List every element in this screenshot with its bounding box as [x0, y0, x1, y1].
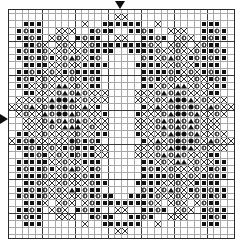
- pattern-cell-filled-square[interactable]: [135, 27, 142, 34]
- pattern-cell-empty[interactable]: [121, 172, 128, 179]
- pattern-cell-empty[interactable]: [128, 62, 135, 69]
- pattern-cell-cross-mark[interactable]: [49, 207, 56, 214]
- pattern-cell-filled-square[interactable]: [148, 186, 155, 193]
- pattern-cell-filled-square[interactable]: [207, 20, 214, 27]
- pattern-cell-half-moon[interactable]: [29, 34, 36, 41]
- pattern-cell-cross-mark[interactable]: [35, 103, 42, 110]
- pattern-cell-cross-mark[interactable]: [201, 110, 208, 117]
- pattern-cell-filled-triangle[interactable]: [68, 165, 75, 172]
- pattern-cell-filled-triangle[interactable]: [62, 83, 69, 90]
- pattern-cell-filled-square[interactable]: [35, 186, 42, 193]
- pattern-cell-empty[interactable]: [181, 234, 188, 238]
- pattern-cell-filled-square[interactable]: [148, 158, 155, 165]
- pattern-cell-filled-triangle[interactable]: [154, 103, 161, 110]
- pattern-cell-filled-circle[interactable]: [55, 96, 62, 103]
- pattern-cell-empty[interactable]: [168, 20, 175, 27]
- pattern-cell-empty[interactable]: [174, 228, 181, 235]
- pattern-cell-half-moon[interactable]: [181, 117, 188, 124]
- pattern-cell-cross-mark[interactable]: [154, 200, 161, 207]
- pattern-cell-cross-mark[interactable]: [55, 124, 62, 131]
- pattern-cell-filled-circle[interactable]: [62, 110, 69, 117]
- pattern-cell-filled-square[interactable]: [148, 179, 155, 186]
- pattern-cell-filled-square[interactable]: [88, 55, 95, 62]
- pattern-cell-empty[interactable]: [227, 34, 234, 41]
- pattern-cell-filled-square[interactable]: [141, 69, 148, 76]
- pattern-cell-empty[interactable]: [227, 179, 234, 186]
- pattern-cell-empty[interactable]: [115, 145, 122, 152]
- pattern-cell-empty[interactable]: [49, 214, 56, 221]
- pattern-cell-half-moon[interactable]: [194, 103, 201, 110]
- pattern-cell-empty[interactable]: [227, 41, 234, 48]
- pattern-cell-cross-mark[interactable]: [194, 200, 201, 207]
- pattern-cell-cross-mark[interactable]: [55, 55, 62, 62]
- pattern-cell-filled-square[interactable]: [88, 165, 95, 172]
- pattern-cell-cross-mark[interactable]: [62, 193, 69, 200]
- pattern-cell-empty[interactable]: [29, 234, 36, 238]
- pattern-cell-filled-square[interactable]: [221, 83, 228, 90]
- pattern-cell-filled-triangle[interactable]: [174, 83, 181, 90]
- pattern-cell-empty[interactable]: [9, 62, 16, 69]
- pattern-cell-empty[interactable]: [115, 124, 122, 131]
- pattern-cell-empty[interactable]: [108, 96, 115, 103]
- pattern-cell-empty[interactable]: [128, 117, 135, 124]
- pattern-cell-filled-square[interactable]: [62, 69, 69, 76]
- pattern-cell-empty[interactable]: [154, 234, 161, 238]
- pattern-cell-cross-mark[interactable]: [148, 89, 155, 96]
- pattern-cell-cross-mark[interactable]: [154, 41, 161, 48]
- pattern-cell-empty[interactable]: [201, 234, 208, 238]
- pattern-cell-cross-mark[interactable]: [62, 27, 69, 34]
- pattern-cell-cross-mark[interactable]: [75, 62, 82, 69]
- pattern-cell-filled-triangle[interactable]: [168, 186, 175, 193]
- pattern-cell-cross-mark[interactable]: [35, 124, 42, 131]
- pattern-cell-filled-triangle[interactable]: [168, 131, 175, 138]
- pattern-cell-half-moon[interactable]: [194, 117, 201, 124]
- pattern-cell-cross-mark[interactable]: [187, 34, 194, 41]
- pattern-cell-empty[interactable]: [174, 20, 181, 27]
- pattern-cell-empty[interactable]: [168, 228, 175, 235]
- pattern-cell-half-moon[interactable]: [95, 214, 102, 221]
- pattern-cell-empty[interactable]: [49, 228, 56, 235]
- pattern-cell-filled-circle[interactable]: [55, 110, 62, 117]
- pattern-cell-filled-square[interactable]: [201, 214, 208, 221]
- pattern-cell-cross-mark[interactable]: [95, 152, 102, 159]
- pattern-cell-half-moon[interactable]: [29, 186, 36, 193]
- pattern-cell-empty[interactable]: [128, 76, 135, 83]
- pattern-cell-cross-mark[interactable]: [168, 48, 175, 55]
- pattern-cell-filled-square[interactable]: [187, 186, 194, 193]
- pattern-cell-empty[interactable]: [135, 165, 142, 172]
- pattern-cell-filled-square[interactable]: [16, 158, 23, 165]
- pattern-cell-empty[interactable]: [227, 48, 234, 55]
- pattern-cell-filled-square[interactable]: [135, 62, 142, 69]
- pattern-cell-cross-mark[interactable]: [49, 193, 56, 200]
- pattern-cell-filled-square[interactable]: [108, 41, 115, 48]
- pattern-cell-empty[interactable]: [9, 20, 16, 27]
- pattern-cell-filled-square[interactable]: [29, 27, 36, 34]
- pattern-cell-empty[interactable]: [168, 34, 175, 41]
- pattern-cell-filled-square[interactable]: [16, 145, 23, 152]
- pattern-cell-half-moon[interactable]: [161, 158, 168, 165]
- pattern-cell-filled-square[interactable]: [35, 221, 42, 228]
- pattern-cell-cross-mark[interactable]: [42, 200, 49, 207]
- pattern-cell-half-moon[interactable]: [22, 48, 29, 55]
- pattern-cell-filled-square[interactable]: [108, 193, 115, 200]
- pattern-cell-empty[interactable]: [194, 13, 201, 20]
- pattern-cell-filled-square[interactable]: [135, 48, 142, 55]
- pattern-cell-cross-mark[interactable]: [135, 89, 142, 96]
- pattern-cell-empty[interactable]: [227, 89, 234, 96]
- pattern-cell-half-moon[interactable]: [214, 110, 221, 117]
- pattern-cell-empty[interactable]: [128, 234, 135, 238]
- pattern-cell-half-moon[interactable]: [42, 48, 49, 55]
- pattern-cell-cross-mark[interactable]: [22, 117, 29, 124]
- pattern-cell-empty[interactable]: [108, 55, 115, 62]
- pattern-cell-empty[interactable]: [115, 48, 122, 55]
- pattern-cell-cross-mark[interactable]: [88, 131, 95, 138]
- pattern-cell-half-moon[interactable]: [181, 152, 188, 159]
- pattern-cell-filled-triangle[interactable]: [42, 110, 49, 117]
- pattern-cell-cross-mark[interactable]: [68, 27, 75, 34]
- pattern-cell-filled-square[interactable]: [102, 193, 109, 200]
- pattern-cell-half-moon[interactable]: [168, 89, 175, 96]
- pattern-cell-empty[interactable]: [121, 131, 128, 138]
- pattern-cell-half-moon[interactable]: [49, 124, 56, 131]
- pattern-cell-cross-mark[interactable]: [42, 138, 49, 145]
- pattern-cell-empty[interactable]: [187, 13, 194, 20]
